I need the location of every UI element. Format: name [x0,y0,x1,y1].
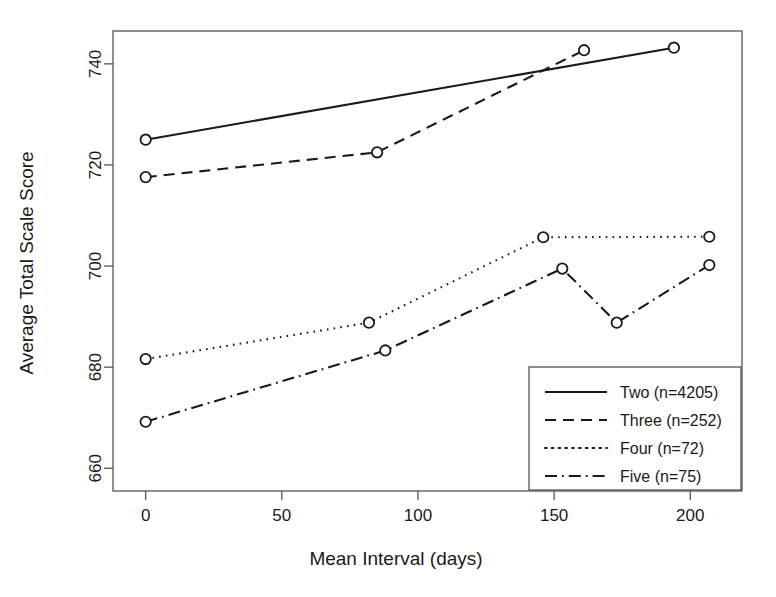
x-tick-label: 200 [676,506,704,525]
x-tick-label: 0 [141,506,150,525]
y-tick-label: 720 [87,151,106,179]
y-tick-label: 660 [87,454,106,482]
x-tick-label: 100 [404,506,432,525]
data-point-marker [372,147,382,157]
chart-background [0,0,776,597]
data-point-marker [140,417,150,427]
data-point-marker [380,345,390,355]
y-tick-label: 680 [87,353,106,381]
data-point-marker [140,172,150,182]
y-tick-label: 740 [87,50,106,78]
y-tick-label: 700 [87,252,106,280]
data-point-marker [579,45,589,55]
legend-item-label: Three (n=252) [620,412,722,429]
data-point-marker [140,354,150,364]
legend-item-label: Four (n=72) [620,440,704,457]
x-tick-label: 50 [272,506,291,525]
x-tick-label: 150 [540,506,568,525]
x-axis-title: Mean Interval (days) [309,548,482,569]
data-point-marker [538,232,548,242]
data-point-marker [704,260,714,270]
legend-item-label: Two (n=4205) [620,384,718,401]
data-point-marker [669,42,679,52]
line-chart: 660680700720740 050100150200 Mean Interv… [0,0,776,597]
data-point-marker [140,134,150,144]
chart-figure: 660680700720740 050100150200 Mean Interv… [0,0,776,597]
data-point-marker [364,317,374,327]
chart-legend[interactable]: Two (n=4205)Three (n=252)Four (n=72)Five… [529,367,741,490]
data-point-marker [557,263,567,273]
data-point-marker [612,317,622,327]
legend-item-label: Five (n=75) [620,468,701,485]
data-point-marker [704,232,714,242]
y-axis-title: Average Total Scale Score [16,151,37,374]
